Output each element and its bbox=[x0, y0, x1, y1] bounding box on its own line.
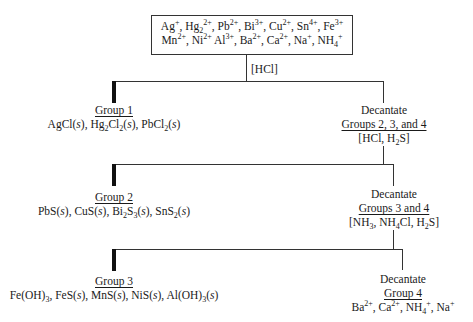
precipitate-bar-group2 bbox=[112, 164, 116, 186]
connector-decant-1 bbox=[383, 81, 384, 103]
starting-ions-box: Ag+, Hg22+, Pb2+, Bi3+, Cu2+, Sn4+, Fe3+… bbox=[151, 15, 353, 55]
group1-title: Group 1 bbox=[48, 103, 181, 117]
decant2-groups: Groups 3 and 4 bbox=[349, 201, 439, 215]
decant2-node: Decantate Groups 3 and 4 [NH3, NH4Cl, H2… bbox=[349, 187, 439, 229]
precipitate-bar-group1 bbox=[112, 81, 116, 103]
group3-precipitates: Fe(OH)3, FeS(s), MnS(s), NiS(s), Al(OH)3… bbox=[10, 288, 219, 302]
group2-node: Group 2 PbS(s), CuS(s), Bi2S3(s), SnS2(s… bbox=[38, 190, 190, 218]
connector-box-down bbox=[246, 55, 247, 81]
group3-node: Group 3 Fe(OH)3, FeS(s), MnS(s), NiS(s),… bbox=[10, 274, 219, 302]
group2-title: Group 2 bbox=[38, 190, 190, 204]
precipitate-bar-group3 bbox=[112, 249, 116, 271]
group3-title: Group 3 bbox=[10, 274, 219, 288]
group2-precipitates: PbS(s), CuS(s), Bi2S3(s), SnS2(s) bbox=[38, 204, 190, 218]
connector-decant2-down bbox=[393, 230, 394, 249]
decant1-reagent: [HCl, H2S] bbox=[342, 131, 427, 145]
connector-decant-2 bbox=[393, 164, 394, 186]
decant2-action: Decantate bbox=[349, 187, 439, 201]
decant1-node: Decantate Groups 2, 3, and 4 [HCl, H2S] bbox=[342, 103, 427, 145]
decant3-action: Decantate bbox=[352, 272, 455, 286]
decant3-node: Decantate Group 4 Ba2+, Ca2+, NH4+, Na+ bbox=[352, 272, 455, 314]
connector-decant-3 bbox=[402, 249, 403, 270]
starting-ions-line-2: Mn2+, Ni2+ Al3+, Ba2+, Ca2+, Na+, NH4+ bbox=[152, 33, 352, 47]
group4-ions: Ba2+, Ca2+, NH4+, Na+ bbox=[352, 300, 455, 314]
reagent-hcl-label: [HCl] bbox=[251, 62, 278, 76]
group1-node: Group 1 AgCl(s), Hg2Cl2(s), PbCl2(s) bbox=[48, 103, 181, 131]
decant1-action: Decantate bbox=[342, 103, 427, 117]
starting-ions-line-1: Ag+, Hg22+, Pb2+, Bi3+, Cu2+, Sn4+, Fe3+ bbox=[152, 19, 352, 33]
split-line-3 bbox=[112, 249, 403, 250]
group4-title: Group 4 bbox=[352, 286, 455, 300]
group1-precipitates: AgCl(s), Hg2Cl2(s), PbCl2(s) bbox=[48, 117, 181, 131]
decant2-reagent: [NH3, NH4Cl, H2S] bbox=[349, 215, 439, 229]
connector-decant1-down bbox=[383, 146, 384, 164]
split-line-1 bbox=[112, 81, 384, 82]
decant1-groups: Groups 2, 3, and 4 bbox=[342, 117, 427, 131]
split-line-2 bbox=[112, 164, 394, 165]
